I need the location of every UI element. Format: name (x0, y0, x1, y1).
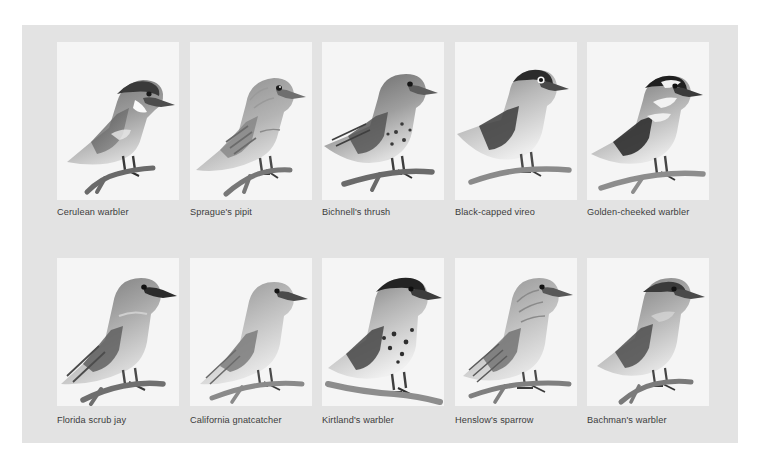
species-caption: Henslow's sparrow (455, 415, 577, 425)
species-cell: California gnatcatcher (190, 258, 312, 425)
species-caption: Black-capped vireo (455, 207, 577, 217)
bird-image-panel (190, 258, 312, 406)
bird-illustration-icon (190, 258, 312, 406)
bird-image-panel (587, 42, 709, 200)
bird-image-panel (322, 42, 444, 200)
species-caption: Sprague's pipit (190, 207, 312, 217)
species-caption: Kirtland's warbler (322, 415, 444, 425)
bird-image-panel (587, 258, 709, 406)
species-caption: California gnatcatcher (190, 415, 312, 425)
bird-illustration-icon (57, 42, 179, 200)
species-cell: Black-capped vireo (455, 42, 577, 217)
bird-illustration-icon (57, 258, 179, 406)
bird-illustration-icon (322, 42, 444, 200)
species-cell: Henslow's sparrow (455, 258, 577, 425)
bird-illustration-icon (190, 42, 312, 200)
species-cell: Sprague's pipit (190, 42, 312, 217)
species-caption: Golden-cheeked warbler (587, 207, 709, 217)
species-row-2: Florida scrub jay (22, 258, 738, 438)
species-row-1: Cerulean warbler (22, 42, 738, 237)
bird-illustration-icon (322, 258, 444, 406)
bird-image-panel (455, 42, 577, 200)
species-cell: Florida scrub jay (57, 258, 179, 425)
species-grid: Cerulean warbler (22, 25, 738, 443)
bird-image-panel (57, 258, 179, 406)
bird-image-panel (322, 258, 444, 406)
species-cell: Cerulean warbler (57, 42, 179, 217)
bird-illustration-icon (587, 258, 709, 406)
bird-image-panel (57, 42, 179, 200)
bird-species-plate: Cerulean warbler (22, 25, 738, 443)
species-cell: Golden-cheeked warbler (587, 42, 709, 217)
bird-illustration-icon (455, 258, 577, 406)
species-cell: Bachman's warbler (587, 258, 709, 425)
species-caption: Bichnell's thrush (322, 207, 444, 217)
bird-illustration-icon (455, 42, 577, 200)
species-cell: Kirtland's warbler (322, 258, 444, 425)
bird-illustration-icon (587, 42, 709, 200)
bird-image-panel (190, 42, 312, 200)
species-cell: Bichnell's thrush (322, 42, 444, 217)
species-caption: Cerulean warbler (57, 207, 179, 217)
bird-image-panel (455, 258, 577, 406)
species-caption: Bachman's warbler (587, 415, 709, 425)
species-caption: Florida scrub jay (57, 415, 179, 425)
